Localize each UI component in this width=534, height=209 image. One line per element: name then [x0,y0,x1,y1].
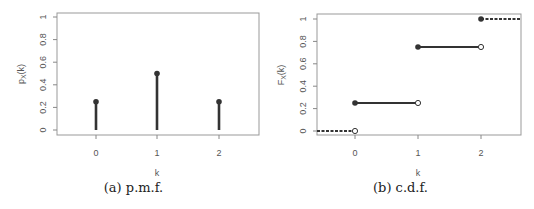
pmf-figure: 0 0.2 0.4 0.6 0.8 1 0 1 2 k pX(k) [0,0,267,209]
plot-frame [317,14,521,135]
svg-text:0: 0 [38,127,48,132]
y-axis-label: FX(k) [276,65,287,86]
svg-text:1: 1 [298,16,308,21]
y-axis [53,17,57,130]
svg-text:1: 1 [38,14,48,19]
x-tick-labels: 0 1 2 [352,148,483,158]
point-k0 [93,99,99,105]
svg-text:0.4: 0.4 [298,80,308,93]
pmf-plot: 0 0.2 0.4 0.6 0.8 1 0 1 2 k pX(k) [0,0,267,180]
svg-text:2: 2 [216,148,221,158]
svg-text:0.8: 0.8 [38,33,48,46]
cdf-open-points [352,44,483,133]
pmf-caption: (a) p.m.f. [0,180,267,195]
x-axis-label: k [416,168,421,178]
cdf-plot: 0 0.2 0.4 0.6 0.8 1 0 1 2 k FX(k) [267,0,534,180]
y-tick-labels: 0 0.2 0.4 0.6 0.8 1 [298,16,308,133]
x-axis-label: k [155,168,160,178]
x-tick-labels: 0 1 2 [93,148,221,158]
svg-text:0.4: 0.4 [38,79,48,92]
cdf-steps [317,19,521,131]
point-k1 [154,71,160,77]
svg-text:1: 1 [415,148,420,158]
svg-text:0: 0 [352,148,357,158]
point-k2 [216,99,222,105]
svg-text:0.2: 0.2 [298,102,308,115]
y-axis [313,19,317,131]
svg-text:1: 1 [154,148,159,158]
svg-text:0.2: 0.2 [38,101,48,114]
pmf-stems [96,74,219,131]
x-axis [96,135,219,139]
svg-text:0.6: 0.6 [298,58,308,71]
y-tick-labels: 0 0.2 0.4 0.6 0.8 1 [38,14,48,132]
svg-text:0: 0 [93,148,98,158]
svg-text:0.6: 0.6 [38,56,48,69]
svg-text:2: 2 [478,148,483,158]
cdf-closed-points [352,16,484,106]
svg-text:0: 0 [298,128,308,133]
svg-text:0.8: 0.8 [298,35,308,48]
cdf-caption: (b) c.d.f. [267,180,534,195]
x-axis [355,135,481,139]
y-axis-label: pX(k) [16,64,27,84]
cdf-figure: 0 0.2 0.4 0.6 0.8 1 0 1 2 k FX(k) [267,0,534,209]
